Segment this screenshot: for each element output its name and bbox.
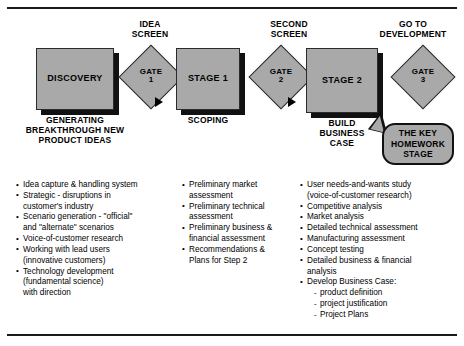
gate-label-3-line2: 3 bbox=[390, 76, 456, 84]
stage-label-discovery: DISCOVERY bbox=[47, 74, 102, 84]
bullet-column-discovery: Idea capture & handling systemStrategic … bbox=[16, 180, 171, 299]
stage-caption-discovery: GENERATINGBREAKTHROUGH NEWPRODUCT IDEAS bbox=[0, 115, 150, 146]
bullet-item: Detailed business & financialanalysis bbox=[300, 256, 462, 278]
bullet-item: Project Plans bbox=[300, 310, 462, 321]
bullet-item: Scenario generation - "official"and "alt… bbox=[16, 212, 171, 234]
top-divider bbox=[7, 7, 457, 9]
bullet-column-stage-2: User needs-and-wants study(voice-of-cust… bbox=[300, 180, 462, 321]
bullet-item: Preliminary marketassessment bbox=[182, 180, 304, 202]
stage-box-stage-1[interactable]: STAGE 1 bbox=[176, 48, 240, 110]
callout-key-homework-stage[interactable]: THE KEYHOMEWORKSTAGE bbox=[382, 123, 454, 165]
gate-label-2-line2: 2 bbox=[248, 76, 314, 84]
bullet-item: Technology development(fundamental scien… bbox=[16, 267, 171, 299]
bullet-item: Working with lead users(innovative custo… bbox=[16, 245, 171, 267]
bullet-item: Voice-of-customer research bbox=[16, 234, 171, 245]
gate-label-2: GATE 2 bbox=[248, 68, 314, 85]
bullet-column-stage-1: Preliminary marketassessmentPreliminary … bbox=[182, 180, 304, 267]
stage-box-stage-2[interactable]: STAGE 2 bbox=[306, 48, 378, 113]
bullet-item: Competitive analysis bbox=[300, 202, 462, 213]
bullet-item: Recommendations &Plans for Step 2 bbox=[182, 245, 304, 267]
callout-label: THE KEYHOMEWORKSTAGE bbox=[391, 128, 445, 160]
bottom-divider bbox=[7, 334, 457, 336]
caption-go-to-development: GO TODEVELOPMENT bbox=[364, 20, 462, 40]
gate-label-1-line2: 1 bbox=[118, 76, 184, 84]
bullet-list-discovery: Idea capture & handling systemStrategic … bbox=[16, 180, 171, 299]
arrow-gate2-to-stage2 bbox=[288, 97, 296, 107]
caption-second-screen: SECONDSCREEN bbox=[248, 20, 330, 40]
bullet-item: project justification bbox=[300, 299, 462, 310]
stage-caption-stage-1: SCOPING bbox=[168, 115, 248, 125]
bullet-item: Market analysis bbox=[300, 212, 462, 223]
bullet-item: Preliminary technicalassessment bbox=[182, 202, 304, 224]
bullet-list-stage-1: Preliminary marketassessmentPreliminary … bbox=[182, 180, 304, 267]
stage-label-stage-2: STAGE 2 bbox=[322, 76, 362, 86]
bullet-item: product definition bbox=[300, 288, 462, 299]
gate-label-1: GATE 1 bbox=[118, 68, 184, 85]
caption-idea-screen: IDEASCREEN bbox=[112, 20, 188, 40]
bullet-item: Concept testing bbox=[300, 245, 462, 256]
stage-label-stage-1: STAGE 1 bbox=[188, 74, 228, 84]
bullet-item: Manufacturing assessment bbox=[300, 234, 462, 245]
bullet-item: User needs-and-wants study(voice-of-cust… bbox=[300, 180, 462, 202]
bullet-list-stage-2: User needs-and-wants study(voice-of-cust… bbox=[300, 180, 462, 321]
stage-box-discovery[interactable]: DISCOVERY bbox=[36, 48, 114, 110]
gate-label-3: GATE 3 bbox=[390, 68, 456, 85]
bullet-item: Develop Business Case: bbox=[300, 277, 462, 288]
bullet-item: Detailed technical assessment bbox=[300, 223, 462, 234]
bullet-item: Strategic - disruptions incustomer's ind… bbox=[16, 191, 171, 213]
bullet-item: Idea capture & handling system bbox=[16, 180, 171, 191]
arrow-gate1-to-stage1 bbox=[155, 97, 163, 107]
bullet-item: Preliminary business &financial assessme… bbox=[182, 223, 304, 245]
